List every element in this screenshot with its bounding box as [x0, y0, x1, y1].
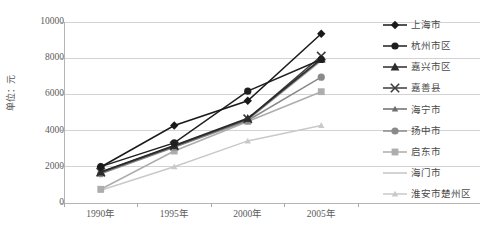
legend-label: 上海市 [411, 20, 441, 30]
legend-item[interactable]: 扬中市 [382, 120, 482, 141]
legend-marker-icon [382, 166, 408, 180]
legend-label: 淮安市楚州区 [411, 189, 471, 199]
legend-marker-icon [382, 18, 408, 32]
legend-label: 扬中市 [411, 126, 441, 136]
legend-marker-icon [382, 145, 408, 159]
legend-marker-icon [382, 102, 408, 116]
legend-label: 启东市 [411, 147, 441, 157]
series-line [97, 52, 326, 177]
legend-label: 杭州市区 [411, 41, 451, 51]
legend-marker-icon [382, 187, 408, 201]
line-chart: 单位：元 0200040006000800010000 1990年1995年20… [0, 0, 482, 236]
legend-marker-icon [382, 60, 408, 74]
legend-marker-icon [382, 39, 408, 53]
legend-item[interactable]: 海门市 [382, 162, 482, 183]
legend-label: 嘉兴市区 [411, 62, 451, 72]
legend-item[interactable]: 海宁市 [382, 99, 482, 120]
legend-item[interactable]: 嘉兴市区 [382, 56, 482, 77]
legend-item[interactable]: 嘉善县 [382, 78, 482, 99]
series-line [97, 88, 324, 192]
legend-marker-icon [382, 124, 408, 138]
legend-item[interactable]: 上海市 [382, 14, 482, 35]
legend-item[interactable]: 淮安市楚州区 [382, 184, 482, 205]
legend-marker-icon [382, 81, 408, 95]
legend-label: 海宁市 [411, 105, 441, 115]
legend-item[interactable]: 启东市 [382, 141, 482, 162]
legend-item[interactable]: 杭州市区 [382, 35, 482, 56]
series-line [97, 30, 326, 172]
legend-label: 嘉善县 [411, 83, 441, 93]
chart-legend: 上海市杭州市区嘉兴市区嘉善县海宁市扬中市启东市海门市淮安市楚州区 [382, 14, 482, 205]
legend-label: 海门市 [411, 168, 441, 178]
